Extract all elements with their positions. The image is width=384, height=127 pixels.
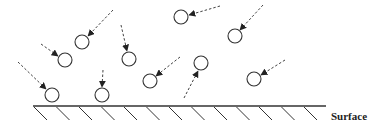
surface-hatch (102, 107, 115, 120)
particle-circle (194, 56, 208, 70)
surface-hatch (79, 107, 92, 120)
trajectory-arrow-icon (41, 44, 58, 56)
surface-hatch (192, 107, 205, 120)
particles (45, 10, 261, 102)
surface-hatch (214, 107, 227, 120)
surface-label: Surface (331, 110, 367, 122)
surface (33, 106, 326, 120)
particle-surface-diagram: Surface (0, 0, 384, 127)
particle-circle (75, 35, 89, 49)
trajectory-arrow-icon (184, 71, 198, 98)
surface-hatch (237, 107, 250, 120)
particle-circle (143, 74, 157, 88)
particle-circle (174, 10, 188, 24)
trajectory-arrow-icon (88, 10, 113, 36)
trajectory-arrow-icon (261, 60, 285, 75)
particle-circle (247, 72, 261, 86)
surface-hatch (147, 107, 160, 120)
particle-circle (95, 88, 109, 102)
particle-circle (228, 29, 242, 43)
surface-hatch (57, 107, 70, 120)
surface-hatch (304, 107, 317, 120)
particle-circle (45, 88, 59, 102)
particle-circle (58, 53, 72, 67)
surface-hatch (169, 107, 182, 120)
trajectory-arrow-icon (156, 57, 180, 76)
trajectory-arrow-icon (240, 5, 263, 30)
trajectory-arrow-icon (18, 62, 46, 89)
particle-circle (122, 52, 136, 66)
trajectory-arrow-icon (189, 6, 220, 15)
trajectory-arrow-icon (121, 25, 127, 51)
surface-hatch (124, 107, 137, 120)
surface-hatch (34, 107, 47, 120)
surface-hatch (282, 107, 295, 120)
surface-hatch (259, 107, 272, 120)
trajectory-arrow-icon (102, 70, 103, 87)
